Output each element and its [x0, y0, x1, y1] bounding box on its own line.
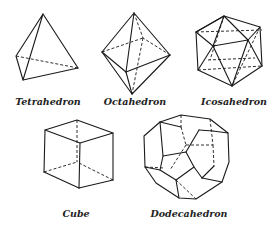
cube-label: Cube: [62, 208, 89, 219]
platonic-solids-figure: [0, 0, 275, 239]
dodecahedron-label: Dodecahedron: [150, 208, 227, 219]
dodecahedron-drawing: [144, 115, 229, 199]
octahedron-drawing: [102, 13, 170, 94]
icosahedron-drawing: [196, 16, 262, 86]
tetrahedron-label: Tetrahedron: [15, 96, 80, 107]
tetrahedron-drawing: [16, 14, 78, 80]
icosahedron-label: Icosahedron: [201, 96, 267, 107]
octahedron-label: Octahedron: [104, 96, 166, 107]
cube-drawing: [44, 120, 113, 188]
